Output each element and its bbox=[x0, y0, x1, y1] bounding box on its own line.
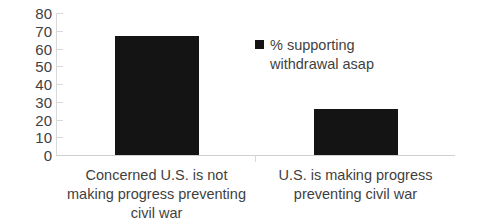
x-axis-category-label: U.S. is making progress preventing civil… bbox=[256, 166, 455, 216]
y-tick-label: 10 bbox=[16, 130, 52, 145]
y-tick-label: 0 bbox=[16, 148, 52, 163]
chart-legend: % supporting withdrawal asap bbox=[255, 36, 405, 74]
x-axis-category-labels: Concerned U.S. is not making progress pr… bbox=[57, 166, 455, 216]
legend-entry-label: % supporting withdrawal asap bbox=[270, 36, 405, 74]
bar-series-0-category-1 bbox=[314, 109, 398, 155]
plot-area bbox=[57, 13, 455, 155]
y-tick-label: 50 bbox=[16, 59, 52, 74]
bar-chart: 80 70 60 50 40 30 20 10 0 % supporting w… bbox=[0, 0, 484, 220]
legend-swatch-icon bbox=[255, 40, 264, 49]
y-tick-label: 60 bbox=[16, 41, 52, 56]
bar-series-0-category-0 bbox=[115, 36, 199, 155]
y-tick-label: 70 bbox=[16, 23, 52, 38]
y-tick-label: 80 bbox=[16, 6, 52, 21]
y-axis-tick-labels: 80 70 60 50 40 30 20 10 0 bbox=[16, 0, 52, 160]
y-tick-label: 20 bbox=[16, 112, 52, 127]
x-axis-category-divider bbox=[255, 155, 256, 162]
x-axis-category-label: Concerned U.S. is not making progress pr… bbox=[57, 166, 256, 216]
y-tick-label: 40 bbox=[16, 77, 52, 92]
y-tick-label: 30 bbox=[16, 94, 52, 109]
